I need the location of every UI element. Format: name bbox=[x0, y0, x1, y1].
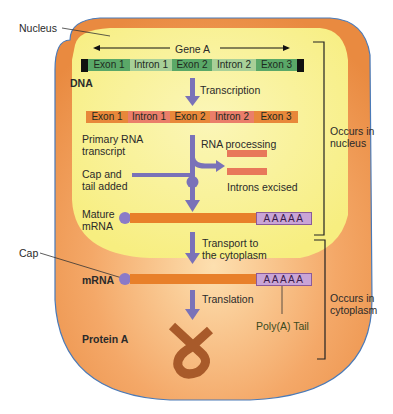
rna-exon-2: Exon 2 bbox=[170, 111, 210, 123]
dna-intron-1: Intron 1 bbox=[130, 59, 172, 71]
rna-processing-label: RNA processing bbox=[201, 138, 276, 150]
transcription-label: Transcription bbox=[200, 84, 260, 96]
nucleus-label: Nucleus bbox=[19, 22, 57, 34]
rna-exon-1: Exon 1 bbox=[86, 111, 128, 123]
mature-polya-tail: AAAAA bbox=[256, 212, 312, 225]
mrna-polya-tail: AAAAA bbox=[256, 273, 312, 286]
transport-label-2: the cytoplasm bbox=[202, 249, 267, 261]
dna-exon-1: Exon 1 bbox=[88, 59, 130, 71]
rna-exon-3: Exon 3 bbox=[254, 111, 298, 123]
rna-intron-2: Intron 2 bbox=[210, 111, 254, 123]
transport-label-1: Transport to bbox=[202, 237, 258, 249]
protein-label: Protein A bbox=[82, 333, 128, 345]
cap-tail-label-1: Cap and bbox=[82, 168, 122, 180]
introns-excised-label: Introns excised bbox=[227, 181, 298, 193]
occurs-nucleus-label-2: nucleus bbox=[330, 137, 366, 149]
translation-label: Translation bbox=[202, 293, 254, 305]
dna-label: DNA bbox=[70, 77, 93, 89]
occurs-cytoplasm-label-1: Occurs in bbox=[330, 292, 374, 304]
mrna-label: mRNA bbox=[82, 274, 114, 286]
occurs-nucleus-label-1: Occurs in bbox=[330, 125, 374, 137]
mature-mrna-label-2: mRNA bbox=[82, 220, 113, 232]
dna-exon-2: Exon 2 bbox=[172, 59, 212, 71]
primary-rna-label-2: transcript bbox=[82, 145, 125, 157]
primary-rna-label-1: Primary RNA bbox=[82, 133, 143, 145]
gene-label: Gene A bbox=[175, 43, 210, 55]
dna-exon-3: Exon 3 bbox=[256, 59, 297, 71]
cap-tail-label-2: tail added bbox=[82, 180, 128, 192]
rna-intron-1: Intron 1 bbox=[128, 111, 170, 123]
occurs-cytoplasm-label-2: cytoplasm bbox=[330, 304, 377, 316]
cap-label: Cap bbox=[19, 247, 38, 259]
mature-mrna-label-1: Mature bbox=[82, 208, 115, 220]
polya-tail-label: Poly(A) Tail bbox=[256, 320, 309, 332]
dna-intron-2: Intron 2 bbox=[212, 59, 256, 71]
